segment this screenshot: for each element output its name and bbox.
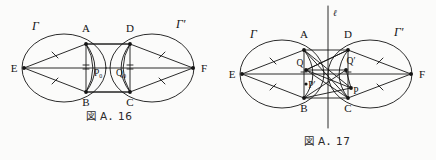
vertex-dot-q — [304, 68, 308, 72]
label-point-q0: Q0 — [116, 68, 126, 79]
label-point-p-prime: P′ — [308, 80, 315, 90]
segment-eb — [242, 74, 304, 98]
figure-a-17-panel: Γ Γ′ ℓ A B C D E F Q Q′ P′ P 図 A．17 — [218, 0, 436, 160]
vertex-dot-d — [346, 48, 350, 52]
vertex-dot-a — [302, 48, 306, 52]
label-point-a: A — [300, 28, 308, 40]
label-point-f: F — [419, 68, 425, 80]
segment-ea — [24, 44, 86, 68]
label-point-c: C — [344, 102, 351, 114]
label-line-ell: ℓ — [333, 8, 337, 18]
figure-page: Γ Γ′ A B C D E F P0 Q0 図 A．16 — [0, 0, 436, 160]
vertex-dot-p — [349, 86, 353, 90]
figure-a-16-panel: Γ Γ′ A B C D E F P0 Q0 図 A．16 — [0, 0, 218, 160]
vertex-dot-c — [128, 90, 132, 94]
vertex-dot-e — [240, 72, 244, 76]
vertex-dot-b — [84, 90, 88, 94]
label-gamma-prime: Γ′ — [175, 17, 186, 31]
segment-ea — [242, 50, 304, 74]
vertex-dot-p-prime — [304, 82, 307, 85]
label-gamma: Γ — [31, 19, 40, 33]
vertex-dot-b — [302, 96, 306, 100]
vertex-dot-a — [84, 42, 88, 46]
label-point-q: Q — [297, 58, 304, 68]
vertex-dot-d — [128, 42, 132, 46]
vertex-dot-f — [409, 72, 413, 76]
label-point-f: F — [201, 62, 207, 74]
label-point-d: D — [344, 28, 352, 40]
label-point-c: C — [126, 96, 133, 108]
label-point-b: B — [82, 96, 89, 108]
segment-eb — [24, 68, 86, 92]
label-point-e: E — [11, 62, 18, 74]
figure-a-16-diagram: Γ Γ′ A B C D E F P0 Q0 — [0, 0, 218, 112]
label-gamma: Γ — [249, 27, 258, 41]
label-point-p: P — [353, 86, 358, 96]
segment-qprime-p — [346, 70, 351, 88]
vertex-dot-e — [22, 66, 26, 70]
label-point-e: E — [229, 68, 236, 80]
label-point-b: B — [300, 102, 307, 114]
vertex-dot-f — [191, 66, 195, 70]
label-point-a: A — [82, 22, 90, 34]
vertex-dot-c — [346, 96, 350, 100]
label-point-q-prime: Q′ — [347, 56, 356, 66]
label-point-d: D — [126, 22, 134, 34]
figure-a-17-diagram: Γ Γ′ ℓ A B C D E F Q Q′ P′ P — [218, 0, 436, 134]
vertex-dot-q-prime — [344, 68, 348, 72]
figure-a-16-caption: 図 A．16 — [0, 108, 218, 123]
label-gamma-prime: Γ′ — [393, 25, 404, 39]
label-point-p0: P0 — [94, 68, 102, 79]
figure-a-17-caption: 図 A．17 — [218, 133, 436, 148]
